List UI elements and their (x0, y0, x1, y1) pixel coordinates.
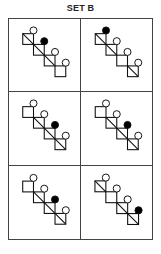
square-2 (105, 191, 116, 202)
open-circle-icon (62, 206, 69, 213)
diagonal-line-4 (55, 139, 66, 150)
open-circle-icon (124, 195, 131, 202)
open-circle-icon (134, 59, 141, 66)
square-4 (55, 66, 66, 77)
filled-circle-icon (102, 27, 109, 34)
open-circle-icon (123, 48, 130, 55)
diagonal-line-3 (44, 128, 55, 139)
figure-grid (8, 18, 153, 240)
set-title: SET B (0, 3, 161, 13)
panel-1[interactable] (9, 19, 81, 92)
filled-circle-icon (123, 122, 130, 129)
diagonal-line-3 (44, 202, 55, 213)
open-circle-icon (30, 27, 37, 34)
panel-6[interactable] (81, 166, 153, 239)
diagonal-line-4 (127, 213, 138, 224)
diagonal-line-4 (55, 213, 66, 224)
diagonal-line-4 (127, 139, 138, 150)
panel-2[interactable] (81, 19, 153, 92)
diagonal-line-3 (44, 55, 55, 66)
staircase-figure-6 (81, 166, 153, 239)
open-circle-icon (41, 111, 48, 118)
diagonal-line-1 (94, 181, 105, 192)
diagonal-line-2 (33, 44, 44, 55)
panel-3[interactable] (9, 92, 81, 165)
staircase-figure-1 (9, 19, 80, 91)
open-circle-icon (41, 185, 48, 192)
diagonal-line-2 (105, 44, 116, 55)
open-circle-icon (113, 185, 120, 192)
square-1 (95, 107, 106, 118)
square-1 (23, 181, 34, 192)
diagonal-line-4 (127, 66, 138, 77)
open-circle-icon (134, 132, 141, 139)
diagonal-line-2 (33, 118, 44, 129)
filled-circle-icon (134, 206, 141, 213)
diagonal-line-2 (33, 192, 44, 203)
filled-circle-icon (41, 38, 48, 45)
staircase-figure-5 (9, 166, 80, 239)
open-circle-icon (102, 174, 109, 181)
staircase-figure-4 (81, 92, 153, 164)
open-circle-icon (113, 38, 120, 45)
diagonal-line-1 (23, 34, 34, 45)
open-circle-icon (30, 174, 37, 181)
panel-4[interactable] (81, 92, 153, 165)
square-3 (116, 55, 127, 66)
diagonal-line-3 (116, 202, 127, 213)
open-circle-icon (113, 111, 120, 118)
open-circle-icon (62, 132, 69, 139)
staircase-figure-2 (81, 19, 153, 91)
panel-5[interactable] (9, 166, 81, 239)
filled-circle-icon (51, 196, 58, 203)
open-circle-icon (62, 59, 69, 66)
square-1 (23, 107, 34, 118)
diagonal-line-3 (116, 128, 127, 139)
diagonal-line-2 (105, 118, 116, 129)
open-circle-icon (102, 100, 109, 107)
open-circle-icon (51, 48, 58, 55)
open-circle-icon (30, 100, 37, 107)
staircase-figure-3 (9, 92, 80, 164)
filled-circle-icon (51, 122, 58, 129)
diagonal-line-1 (95, 34, 106, 45)
